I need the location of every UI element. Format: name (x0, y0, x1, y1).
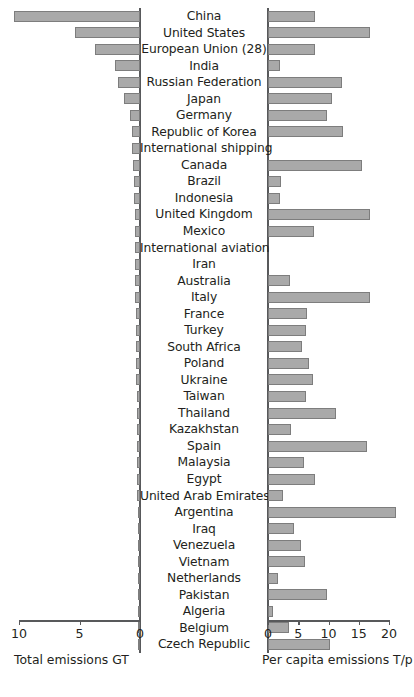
right-bar-cell (268, 504, 414, 521)
right-bar-cell (268, 74, 414, 91)
total-emissions-bar (134, 193, 140, 204)
left-bar-cell (0, 239, 140, 256)
total-emissions-bar (135, 242, 140, 253)
total-emissions-bar (137, 408, 140, 419)
right-bar-cell (268, 487, 414, 504)
total-emissions-bar (136, 325, 140, 336)
per-capita-emissions-bar (268, 308, 307, 319)
category-label: Canada (140, 159, 268, 171)
category-label: United Arab Emirates (140, 490, 268, 502)
chart-row: Vietnam (0, 554, 414, 571)
right-axis-5-tick-label: 5 (294, 626, 302, 641)
left-bar-cell (0, 256, 140, 273)
category-label: Netherlands (140, 572, 268, 584)
chart-row: Pakistan (0, 587, 414, 604)
chart-row: Iran (0, 256, 414, 273)
right-bar-cell (268, 107, 414, 124)
per-capita-emissions-bar (268, 292, 370, 303)
left-bar-cell (0, 372, 140, 389)
per-capita-emissions-bar (268, 209, 370, 220)
chart-row: Germany (0, 107, 414, 124)
left-bar-cell (0, 140, 140, 157)
right-bar-cell (268, 91, 414, 108)
chart-row: International shipping (0, 140, 414, 157)
category-label: Turkey (140, 324, 268, 336)
category-label: Vietnam (140, 556, 268, 568)
left-bar-cell (0, 322, 140, 339)
chart-row: Republic of Korea (0, 124, 414, 141)
right-bar-cell (268, 322, 414, 339)
chart-row: Iraq (0, 520, 414, 537)
right-bar-cell (268, 471, 414, 488)
left-bar-cell (0, 41, 140, 58)
right-bar-cell (268, 520, 414, 537)
category-label: Italy (140, 291, 268, 303)
category-label: India (140, 60, 268, 72)
total-emissions-bar (138, 507, 140, 518)
right-bar-cell (268, 405, 414, 422)
total-emissions-bar (124, 93, 140, 104)
left-bar-cell (0, 206, 140, 223)
left-bar-cell (0, 306, 140, 323)
total-emissions-bar (95, 44, 140, 55)
right-bar-cell (268, 190, 414, 207)
category-label: Iran (140, 258, 268, 270)
chart-row: Poland (0, 355, 414, 372)
chart-row: Canada (0, 157, 414, 174)
per-capita-emissions-bar (268, 523, 294, 534)
left-bar-cell (0, 58, 140, 75)
category-label: International aviation (140, 242, 268, 254)
left-axis-0-tick-label: 0 (136, 626, 144, 641)
total-emissions-bar (137, 474, 140, 485)
chart-row: International aviation (0, 239, 414, 256)
category-label: France (140, 308, 268, 320)
per-capita-emissions-bar (268, 589, 327, 600)
category-label: Czech Republic (140, 638, 268, 650)
total-emissions-bar (135, 292, 140, 303)
per-capita-emissions-bar (268, 93, 332, 104)
per-capita-emissions-bar (268, 457, 304, 468)
total-emissions-bar (137, 457, 140, 468)
chart-row: United States (0, 25, 414, 42)
total-emissions-bar (135, 226, 140, 237)
total-emissions-bar (137, 391, 140, 402)
category-label: Mexico (140, 225, 268, 237)
per-capita-emissions-bar (268, 126, 343, 137)
per-capita-emissions-bar (268, 193, 280, 204)
left-bar-cell (0, 388, 140, 405)
left-axis-5-tick (80, 620, 81, 625)
chart-row: Argentina (0, 504, 414, 521)
chart-row: Venezuela (0, 537, 414, 554)
chart-row: Australia (0, 273, 414, 290)
category-label: China (140, 10, 268, 22)
total-emissions-bar (138, 523, 140, 534)
category-label: Indonesia (140, 192, 268, 204)
left-bar-cell (0, 107, 140, 124)
category-label: South Africa (140, 341, 268, 353)
category-label: Belgium (140, 622, 268, 634)
right-bar-cell (268, 239, 414, 256)
left-bar-cell (0, 587, 140, 604)
total-emissions-bar (136, 308, 140, 319)
right-bar-cell (268, 289, 414, 306)
category-label: Germany (140, 109, 268, 121)
right-bar-cell (268, 587, 414, 604)
right-bar-cell (268, 421, 414, 438)
right-bar-cell (268, 454, 414, 471)
chart-row: Indonesia (0, 190, 414, 207)
right-axis-15-tick-label: 15 (351, 626, 367, 641)
total-emissions-bar (75, 27, 140, 38)
category-label: Poland (140, 357, 268, 369)
total-emissions-bar (136, 358, 140, 369)
per-capita-emissions-bar (268, 474, 315, 485)
left-bar-cell (0, 273, 140, 290)
left-bar-cell (0, 438, 140, 455)
right-bar-cell (268, 223, 414, 240)
right-axis-15-tick (359, 620, 360, 625)
per-capita-emissions-bar (268, 441, 367, 452)
chart-row: Thailand (0, 405, 414, 422)
per-capita-emissions-bar (268, 325, 306, 336)
left-bar-cell (0, 74, 140, 91)
chart-row: United Kingdom (0, 206, 414, 223)
total-emissions-bar (137, 441, 140, 452)
